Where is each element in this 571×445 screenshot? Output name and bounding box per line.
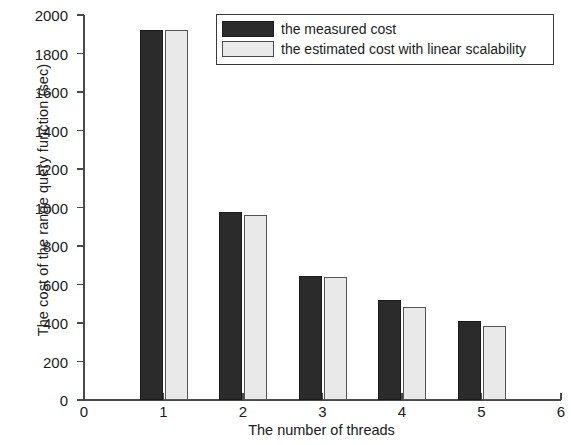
y-tick-mark — [77, 14, 84, 16]
x-tick-label: 1 — [149, 403, 179, 420]
y-tick-mark — [77, 284, 84, 286]
x-tick-label: 6 — [546, 403, 571, 420]
x-tick-label: 5 — [467, 403, 497, 420]
y-tick-label: 400 — [8, 315, 68, 332]
bar-estimated-3 — [324, 277, 347, 400]
y-tick-mark — [77, 245, 84, 247]
legend-item: the measured cost — [222, 19, 548, 39]
y-tick-label: 1800 — [8, 45, 68, 62]
legend-label: the estimated cost with linear scalabili… — [281, 41, 526, 57]
y-tick-label: 1600 — [8, 84, 68, 101]
measured-swatch-icon — [222, 21, 274, 37]
bar-chart-figure: The cost of the range query function (se… — [0, 0, 571, 445]
bar-measured-4 — [378, 300, 401, 400]
x-tick-label: 0 — [69, 403, 99, 420]
x-tick-label: 3 — [308, 403, 338, 420]
y-tick-mark — [77, 361, 84, 363]
y-tick-label: 1000 — [8, 199, 68, 216]
y-tick-label: 1400 — [8, 122, 68, 139]
y-tick-mark — [77, 207, 84, 209]
legend-label: the measured cost — [281, 21, 396, 37]
bar-measured-3 — [299, 276, 322, 400]
y-tick-label: 1200 — [8, 161, 68, 178]
y-tick-label: 2000 — [8, 7, 68, 24]
chart-legend: the measured cost the estimated cost wit… — [216, 14, 554, 65]
y-tick-label: 800 — [8, 238, 68, 255]
legend-item: the estimated cost with linear scalabili… — [222, 39, 548, 59]
y-tick-mark — [77, 53, 84, 55]
bar-estimated-1 — [165, 30, 188, 400]
bar-measured-1 — [140, 30, 163, 400]
y-tick-mark — [77, 322, 84, 324]
x-axis-title: The number of threads — [83, 422, 560, 438]
y-tick-mark — [77, 130, 84, 132]
x-tick-label: 4 — [387, 403, 417, 420]
y-tick-label: 200 — [8, 353, 68, 370]
bar-estimated-5 — [483, 326, 506, 400]
y-tick-label: 0 — [8, 392, 68, 409]
estimated-swatch-icon — [222, 41, 274, 57]
bar-estimated-2 — [244, 215, 267, 400]
bar-measured-5 — [458, 321, 481, 400]
y-tick-mark — [77, 91, 84, 93]
bar-estimated-4 — [403, 307, 426, 400]
x-tick-label: 2 — [228, 403, 258, 420]
plot-area — [84, 15, 561, 400]
bar-measured-2 — [219, 212, 242, 400]
y-tick-label: 600 — [8, 276, 68, 293]
y-tick-mark — [77, 168, 84, 170]
